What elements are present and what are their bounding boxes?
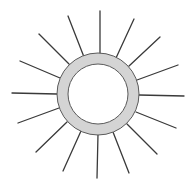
- sun-ray-3: [129, 37, 160, 66]
- sun-ring-center: [68, 64, 128, 124]
- sun-ray-2: [116, 19, 134, 58]
- sun-ray-11: [36, 122, 67, 152]
- sun-icon: [0, 0, 196, 189]
- sun-ray-5: [139, 95, 184, 96]
- sun-ray-12: [18, 108, 59, 123]
- sun-ray-13: [12, 93, 57, 94]
- sun-ray-6: [136, 112, 176, 128]
- sun-ray-8: [113, 132, 129, 173]
- sun-ray-14: [20, 61, 60, 78]
- sun-ray-7: [127, 124, 157, 154]
- sun-ray-16: [68, 16, 84, 57]
- sun-ray-4: [137, 65, 178, 80]
- sun-ray-9: [97, 134, 98, 178]
- sun-ray-10: [63, 131, 81, 171]
- sun-ray-15: [39, 34, 69, 64]
- sun-diagram: [0, 0, 196, 189]
